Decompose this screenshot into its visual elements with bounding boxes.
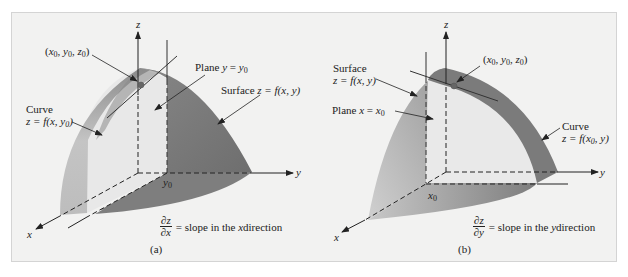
panel-b-z-axis-label: z [444,18,448,30]
panel-a-x-axis-label: x [27,228,32,240]
panel-b-x0-tick: x0 [428,189,437,205]
panel-a-curve-label: Curvez = f(x, y0) [26,103,73,131]
panel-a-slope-annotation: ∂z∂x = slope in the x direction [160,215,282,238]
panel-b-y-axis-label: y [600,166,605,178]
panel-a-plane-label: Plane y = y0 [195,61,248,77]
panel-a-caption: (a) [150,243,162,255]
panel-a-y0-tick: y0 [163,176,172,192]
panel-a-y-axis-label: y [296,166,301,178]
panel-b-caption: (b) [458,243,471,255]
panel-a-point-label: (x0, y0, z0) [45,45,89,61]
panel-b-point-label: (x0, y0, z0) [483,53,527,69]
panel-b-graphics [342,32,598,232]
panel-b-slope-annotation: ∂z∂y = slope in the y direction [473,215,595,238]
panel-a-graphics [36,32,293,229]
panel-a-z-axis-label: z [136,18,140,30]
panel-b-x-axis-label: x [334,231,339,243]
panel-b-plane-label: Plane x = x0 [332,104,385,120]
panel-b-surface-label: Surfacez = f(x, y) [333,62,376,86]
panel-a-surface-label: Surface z = f(x, y) [221,84,300,96]
panel-b-curve-label: Curvez = f(x0, y) [562,120,609,148]
